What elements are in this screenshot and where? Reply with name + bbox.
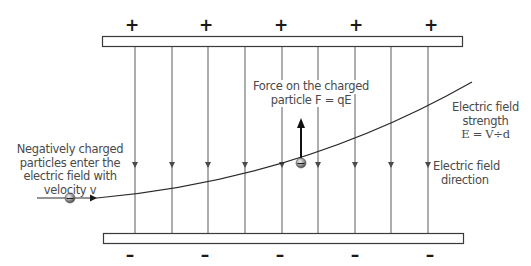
arrow-down-icon (169, 162, 175, 168)
entry-label-line: electric field with (0, 170, 140, 184)
arrow-down-icon (352, 162, 358, 168)
plus-sign: + (199, 17, 213, 34)
entry-label-line: particles enter the (0, 157, 140, 171)
force-label-line: particle F = qE (271, 94, 352, 108)
entry-label-line: velocity v (0, 184, 140, 198)
minus-sign: – (276, 247, 285, 264)
force-arrow-icon (297, 118, 305, 128)
plus-sign: + (125, 17, 139, 34)
minus-sign: – (426, 247, 435, 264)
plus-sign: + (424, 17, 438, 34)
entry-label: Negatively charged particles enter the e… (0, 143, 140, 197)
arrow-down-icon (425, 162, 431, 168)
field-direction-label-line: direction (433, 174, 500, 188)
minus-sign: – (201, 247, 210, 264)
field-lines (135, 47, 428, 233)
particle-in-field (296, 158, 306, 168)
arrow-down-icon (242, 162, 248, 168)
field-direction-label: Electric field direction (433, 160, 500, 187)
field-strength-formula: E = V÷d (440, 128, 531, 142)
arrow-down-icon (315, 162, 321, 168)
positive-plate (103, 37, 463, 47)
minus-sign: – (126, 247, 135, 264)
force-label-line: Force on the charged (253, 80, 369, 94)
plus-sign: + (349, 17, 363, 34)
field-strength-label: Electric field strength E = V÷d (440, 101, 531, 142)
force-label: Force on the charged particle F = qE (236, 80, 386, 107)
arrow-down-icon (205, 162, 211, 168)
plus-sign: + (274, 17, 288, 34)
field-direction-label-line: Electric field (433, 160, 500, 174)
field-strength-label-line: strength (440, 115, 531, 129)
arrow-down-icon (388, 162, 394, 168)
negative-plate (104, 234, 464, 244)
field-strength-label-line: Electric field (440, 101, 531, 115)
entry-label-line: Negatively charged (0, 143, 140, 157)
minus-sign: – (351, 247, 360, 264)
